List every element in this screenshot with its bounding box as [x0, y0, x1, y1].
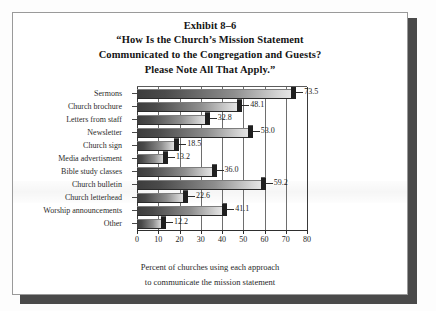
category-label: Church sign	[83, 141, 122, 150]
bar-value-label: 32.8	[218, 113, 232, 122]
category-label-row: Church bulletin	[13, 178, 125, 191]
bar-row: 48.1	[137, 100, 307, 113]
x-axis-tick-label: 50	[239, 235, 247, 244]
bar-value-label: 53.0	[261, 126, 275, 135]
bar	[137, 180, 263, 190]
x-axis-tick-label: 70	[282, 235, 290, 244]
bar-body	[137, 141, 176, 151]
category-label: Sermons	[94, 89, 122, 98]
category-label-row: Letters from staff	[13, 113, 125, 126]
bar-body	[137, 89, 293, 99]
value-leader-line	[188, 196, 195, 197]
value-leader-line	[296, 92, 303, 93]
x-axis-tick	[158, 230, 159, 234]
chart-caption: Percent of churches using each approach …	[13, 260, 407, 290]
value-leader-line	[242, 105, 249, 106]
bar-body	[137, 102, 239, 112]
x-axis-tick-label: 20	[176, 235, 184, 244]
exhibit-title-line-3: Please Note All That Apply.”	[13, 62, 407, 77]
x-axis-tick	[286, 230, 287, 234]
bar	[137, 167, 214, 177]
bar-chart: SermonsChurch brochureLetters from staff…	[13, 87, 408, 247]
x-axis-tick	[265, 230, 266, 234]
caption-line-2: to communicate the mission statement	[13, 275, 407, 290]
bar-value-label: 48.1	[250, 100, 264, 109]
bar-row: 53.0	[137, 126, 307, 139]
category-label: Bible study classes	[61, 167, 122, 176]
exhibit-title-line-2: Communicated to the Congregation and Gue…	[13, 47, 407, 62]
bar-row: 59.2	[137, 178, 307, 191]
caption-line-1: Percent of churches using each approach	[13, 260, 407, 275]
value-leader-line	[179, 144, 186, 145]
x-axis-tick	[222, 230, 223, 234]
plot-inner: 73.548.132.853.018.513.236.059.222.641.1…	[137, 87, 307, 230]
x-axis-tick	[307, 230, 308, 234]
bar	[137, 115, 207, 125]
category-label: Media advertisment	[58, 154, 122, 163]
x-axis-tick-label: 10	[154, 235, 162, 244]
exhibit-title-line-1: “How Is the Church’s Mission Statement	[13, 32, 407, 47]
exhibit-number: Exhibit 8–6	[13, 19, 407, 32]
bar	[137, 154, 165, 164]
category-label-row: Sermons	[13, 87, 125, 100]
bar-value-label: 22.6	[196, 191, 210, 200]
x-axis-tick-label: 80	[303, 235, 311, 244]
bar	[137, 193, 185, 203]
bar-body	[137, 180, 263, 190]
bar	[137, 102, 239, 112]
bar-row: 73.5	[137, 87, 307, 100]
value-leader-line	[210, 118, 217, 119]
category-label-row: Worship announcements	[13, 204, 125, 217]
category-label-row: Church sign	[13, 139, 125, 152]
category-label: Other	[104, 219, 122, 228]
category-label: Letters from staff	[66, 115, 122, 124]
bar-value-label: 13.2	[176, 152, 190, 161]
bar	[137, 141, 176, 151]
exhibit-page: Exhibit 8–6 “How Is the Church’s Mission…	[12, 12, 408, 295]
x-axis-tick	[243, 230, 244, 234]
value-leader-line	[227, 209, 234, 210]
category-axis: SermonsChurch brochureLetters from staff…	[13, 87, 125, 230]
category-label: Worship announcements	[43, 206, 122, 215]
bar	[137, 219, 163, 229]
value-leader-line	[266, 183, 273, 184]
x-axis-tick-label: 60	[261, 235, 269, 244]
bar-value-label: 36.0	[225, 165, 239, 174]
category-label-row: Newsletter	[13, 126, 125, 139]
plot-area: 73.548.132.853.018.513.236.059.222.641.1…	[137, 87, 307, 230]
value-leader-line	[217, 170, 224, 171]
bar	[137, 89, 293, 99]
bar-row: 12.2	[137, 217, 307, 230]
category-label-row: Church letterhead	[13, 191, 125, 204]
bar-body	[137, 154, 165, 164]
x-axis-tick-label: 40	[218, 235, 226, 244]
bar-body	[137, 115, 207, 125]
gridline-80	[307, 87, 308, 230]
category-label: Church bulletin	[72, 180, 122, 189]
category-label: Church brochure	[68, 102, 122, 111]
category-label-row: Church brochure	[13, 100, 125, 113]
bar-value-label: 12.2	[174, 217, 188, 226]
bar	[137, 206, 224, 216]
x-axis-tick	[137, 230, 138, 234]
bar-value-label: 59.2	[274, 178, 288, 187]
bar-value-label: 41.1	[235, 204, 249, 213]
x-axis-tick-label: 30	[197, 235, 205, 244]
bar-row: 13.2	[137, 152, 307, 165]
bar-body	[137, 193, 185, 203]
bar-body	[137, 128, 250, 138]
category-label: Church letterhead	[65, 193, 122, 202]
category-label-row: Media advertisment	[13, 152, 125, 165]
value-leader-line	[168, 157, 175, 158]
bar-value-label: 73.5	[304, 87, 318, 96]
x-axis-tick	[180, 230, 181, 234]
category-label-row: Other	[13, 217, 125, 230]
bar-body	[137, 167, 214, 177]
x-axis-tick-label: 0	[135, 235, 139, 244]
bar-body	[137, 219, 163, 229]
bar-row: 36.0	[137, 165, 307, 178]
value-leader-line	[253, 131, 260, 132]
bar-value-label: 18.5	[187, 139, 201, 148]
title-block: Exhibit 8–6 “How Is the Church’s Mission…	[13, 19, 407, 77]
x-axis-tick	[201, 230, 202, 234]
